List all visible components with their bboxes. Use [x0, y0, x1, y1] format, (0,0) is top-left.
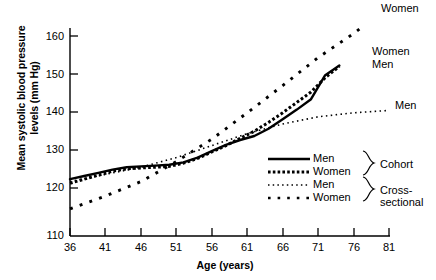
brace-cross-sectional: [362, 176, 376, 204]
legend-group-label-cross-sectional: Cross-sectional: [380, 184, 423, 208]
blood-pressure-line-chart: Mean systolic blood pressure levels (mm …: [0, 0, 436, 280]
legend-label-cohort-men: Men: [313, 152, 334, 165]
legend-key-fine-dotted: [266, 178, 312, 191]
callout-cross-sectional-men: Men: [395, 99, 416, 111]
callout-cohort-women: Women: [372, 45, 410, 57]
legend-key-solid: [266, 152, 312, 165]
data-series-layer: [70, 28, 389, 209]
axis-frame: [70, 28, 390, 236]
legend-group-label-cohort: Cohort: [380, 158, 413, 170]
legend-key-thick-dotted: [266, 165, 312, 178]
y-axis-ticks: [70, 36, 78, 188]
legend-key-spaced-dotted: [266, 191, 312, 204]
brace-cohort: [362, 150, 376, 178]
x-axis-ticks: [70, 228, 389, 236]
legend-label-cross-sectional-women: Women: [313, 191, 351, 204]
callout-cohort-men: Men: [372, 58, 393, 70]
legend-label-cross-sectional-men: Men: [313, 178, 334, 191]
callout-cross-sectional-women: Women: [381, 2, 419, 14]
legend-label-cohort-women: Women: [313, 165, 351, 178]
plot-area: [0, 0, 436, 280]
